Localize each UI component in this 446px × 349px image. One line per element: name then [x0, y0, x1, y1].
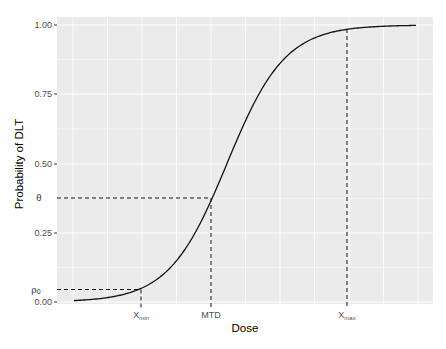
- y-axis-title: Probability of DLT: [13, 119, 25, 210]
- x-tick-xmin: Xmin: [133, 310, 149, 321]
- y-tick-label: 0.50: [34, 159, 52, 169]
- theta-label: θ: [36, 192, 41, 203]
- rho0-label: ρ0: [31, 284, 40, 295]
- x-tick-mtd: MTD: [201, 310, 221, 320]
- x-tick-xmax: Xmax: [338, 310, 355, 321]
- y-tick-label: 0.75: [34, 89, 52, 99]
- chart-canvas: 0.00 0.25 0.50 0.75 1.00 θ ρ0 Xmin MTD X…: [0, 0, 446, 349]
- y-tick-label: 0.25: [34, 228, 52, 238]
- y-tick-label: 1.00: [34, 20, 52, 30]
- plot-panel: [57, 17, 433, 304]
- y-axis-ticks: [54, 25, 57, 302]
- y-tick-label: 0.00: [34, 297, 52, 307]
- x-axis-title: Dose: [232, 322, 259, 334]
